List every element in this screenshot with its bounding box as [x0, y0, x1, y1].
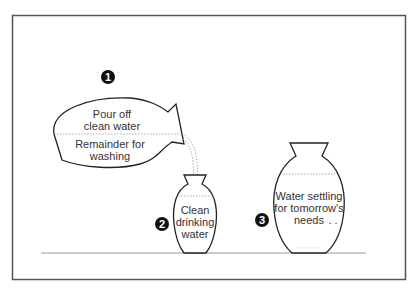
step-1-badge: 1: [101, 70, 115, 84]
svg-text:3: 3: [259, 214, 265, 226]
step-3-badge: 3: [255, 213, 269, 227]
label-clean: Clean: [181, 204, 210, 216]
label-water-settling: Water settling: [276, 190, 343, 202]
water-settling-diagram: 1 Pour off clean water Remainder for was…: [0, 0, 416, 290]
label-drinking: drinking: [176, 216, 215, 228]
label-tomorrows: for tomorrow's: [274, 202, 344, 214]
svg-text:1: 1: [105, 71, 111, 83]
label-remainder: Remainder for: [75, 138, 145, 150]
svg-text:2: 2: [159, 218, 165, 230]
step-2-badge: 2: [155, 217, 169, 231]
label-washing: washing: [89, 150, 130, 162]
sediment-dots: . .: [328, 214, 337, 226]
label-pour-off: Pour off: [93, 108, 132, 120]
label-needs: needs: [294, 214, 324, 226]
label-water: water: [181, 228, 209, 240]
label-clean-water: clean water: [84, 120, 141, 132]
